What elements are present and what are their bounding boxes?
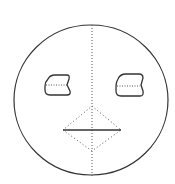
face-svg — [0, 0, 175, 184]
face-outline — [14, 25, 168, 175]
right-eye — [116, 74, 143, 96]
face-diagram — [0, 0, 175, 184]
